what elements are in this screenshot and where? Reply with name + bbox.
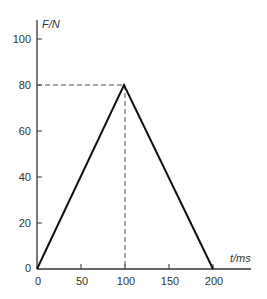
y-tick-100: 100 [13,33,31,45]
x-tick-labels: 0 50 100 150 200 [35,275,223,287]
y-ticks [37,39,42,223]
x-ticks [81,264,213,269]
y-tick-40: 40 [19,171,31,183]
y-tick-80: 80 [19,79,31,91]
x-tick-0: 0 [35,275,41,287]
y-tick-0: 0 [25,262,31,274]
x-tick-150: 150 [161,275,179,287]
x-tick-200: 200 [205,275,223,287]
x-tick-100: 100 [117,275,135,287]
y-tick-labels: 100 80 60 40 20 0 [13,33,31,274]
y-tick-20: 20 [19,217,31,229]
x-tick-50: 50 [76,275,88,287]
y-tick-60: 60 [19,125,31,137]
y-axis-label: F/N [42,18,60,30]
x-axis-label: t/ms [230,252,251,264]
force-time-chart: 100 80 60 40 20 0 0 50 100 150 200 F/N t… [0,0,267,299]
